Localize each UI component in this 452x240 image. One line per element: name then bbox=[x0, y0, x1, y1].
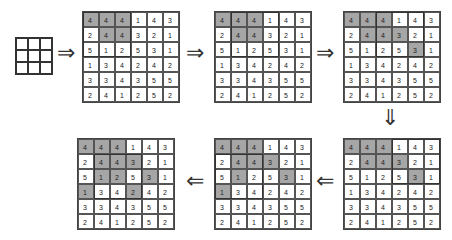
matrix-cell: 2 bbox=[376, 42, 392, 57]
matrix-cell: 4 bbox=[376, 12, 392, 27]
matrix-cell: 2 bbox=[344, 154, 360, 169]
matrix-cell: 3 bbox=[360, 57, 376, 72]
matrix-cell: 3 bbox=[392, 27, 408, 42]
matrix-cell: 2 bbox=[295, 184, 311, 199]
matrix-cell: 5 bbox=[131, 42, 147, 57]
matrix-cell: 4 bbox=[94, 154, 110, 169]
kernel-3x3-grid bbox=[15, 37, 53, 75]
matrix-cell: 4 bbox=[408, 184, 424, 199]
matrix-cell: 4 bbox=[360, 87, 376, 102]
matrix-cell: 4 bbox=[360, 27, 376, 42]
matrix-cell: 4 bbox=[408, 12, 424, 27]
matrix-cell: 5 bbox=[215, 42, 231, 57]
matrix-cell: 3 bbox=[231, 184, 247, 199]
matrix-cell: 1 bbox=[163, 27, 179, 42]
matrix-cell: 1 bbox=[295, 169, 311, 184]
matrix-grid-step-5: 444143244321512531134242334355241252 bbox=[214, 138, 312, 230]
matrix-cell: 2 bbox=[78, 214, 94, 229]
matrix-cell: 4 bbox=[360, 139, 376, 154]
matrix-cell: 4 bbox=[247, 27, 263, 42]
matrix-cell: 3 bbox=[408, 169, 424, 184]
matrix-cell: 2 bbox=[83, 87, 99, 102]
matrix-cell: 5 bbox=[279, 87, 295, 102]
matrix-cell: 2 bbox=[295, 87, 311, 102]
matrix-cell: 3 bbox=[126, 199, 142, 214]
matrix-cell: 3 bbox=[231, 57, 247, 72]
kernel-cell bbox=[28, 62, 40, 74]
matrix-cell: 3 bbox=[158, 139, 174, 154]
matrix-cell: 1 bbox=[376, 214, 392, 229]
matrix-cell: 5 bbox=[147, 72, 163, 87]
matrix-cell: 2 bbox=[392, 87, 408, 102]
matrix-cell: 2 bbox=[344, 27, 360, 42]
matrix-grid-step-1: 444143244321512531134242334355241252 bbox=[82, 11, 180, 103]
matrix-cell: 4 bbox=[247, 12, 263, 27]
kernel-cell bbox=[28, 50, 40, 62]
matrix-cell: 4 bbox=[231, 139, 247, 154]
double-arrow-right-icon: ⇒ bbox=[186, 42, 204, 64]
matrix-cell: 3 bbox=[99, 57, 115, 72]
matrix-cell: 1 bbox=[360, 169, 376, 184]
matrix-cell: 1 bbox=[247, 214, 263, 229]
matrix-cell: 2 bbox=[424, 184, 440, 199]
matrix-grid-step-4: 444143244321512531134242334355241252 bbox=[343, 138, 441, 230]
double-arrow-right-icon: ⇒ bbox=[57, 42, 75, 64]
matrix-cell: 3 bbox=[344, 72, 360, 87]
matrix-cell: 3 bbox=[424, 139, 440, 154]
matrix-cell: 4 bbox=[344, 139, 360, 154]
matrix-cell: 5 bbox=[424, 72, 440, 87]
matrix-cell: 4 bbox=[408, 139, 424, 154]
matrix-cell: 2 bbox=[295, 214, 311, 229]
matrix-cell: 1 bbox=[295, 154, 311, 169]
matrix-cell: 5 bbox=[263, 42, 279, 57]
matrix-cell: 4 bbox=[215, 12, 231, 27]
matrix-cell: 4 bbox=[247, 199, 263, 214]
matrix-cell: 4 bbox=[215, 139, 231, 154]
matrix-cell: 5 bbox=[295, 199, 311, 214]
matrix-cell: 2 bbox=[215, 154, 231, 169]
matrix-cell: 5 bbox=[408, 199, 424, 214]
matrix-cell: 4 bbox=[360, 154, 376, 169]
matrix-cell: 4 bbox=[376, 139, 392, 154]
matrix-cell: 5 bbox=[142, 214, 158, 229]
matrix-cell: 3 bbox=[99, 72, 115, 87]
matrix-cell: 4 bbox=[360, 12, 376, 27]
matrix-cell: 5 bbox=[295, 72, 311, 87]
matrix-cell: 3 bbox=[78, 199, 94, 214]
matrix-grid-step-6: 444143244321512531134242334355241252 bbox=[77, 138, 175, 230]
matrix-cell: 2 bbox=[424, 57, 440, 72]
matrix-cell: 4 bbox=[115, 72, 131, 87]
matrix-cell: 3 bbox=[424, 12, 440, 27]
matrix-cell: 2 bbox=[392, 184, 408, 199]
matrix-cell: 3 bbox=[94, 184, 110, 199]
matrix-cell: 5 bbox=[279, 72, 295, 87]
matrix-cell: 4 bbox=[110, 139, 126, 154]
matrix-cell: 1 bbox=[115, 87, 131, 102]
matrix-cell: 1 bbox=[263, 139, 279, 154]
matrix-cell: 4 bbox=[78, 139, 94, 154]
kernel-cell bbox=[40, 50, 52, 62]
matrix-cell: 5 bbox=[83, 42, 99, 57]
matrix-cell: 2 bbox=[147, 27, 163, 42]
matrix-cell: 1 bbox=[215, 184, 231, 199]
matrix-cell: 1 bbox=[231, 42, 247, 57]
matrix-cell: 5 bbox=[126, 169, 142, 184]
matrix-cell: 4 bbox=[376, 57, 392, 72]
matrix-cell: 5 bbox=[279, 214, 295, 229]
matrix-cell: 1 bbox=[99, 42, 115, 57]
matrix-cell: 3 bbox=[263, 72, 279, 87]
matrix-cell: 4 bbox=[376, 199, 392, 214]
matrix-cell: 1 bbox=[78, 184, 94, 199]
matrix-cell: 3 bbox=[263, 199, 279, 214]
matrix-cell: 3 bbox=[392, 199, 408, 214]
matrix-cell: 4 bbox=[231, 12, 247, 27]
kernel-cell bbox=[40, 62, 52, 74]
matrix-cell: 1 bbox=[83, 57, 99, 72]
matrix-cell: 4 bbox=[115, 27, 131, 42]
matrix-cell: 2 bbox=[408, 27, 424, 42]
matrix-cell: 4 bbox=[142, 139, 158, 154]
matrix-cell: 2 bbox=[263, 214, 279, 229]
kernel-cell bbox=[40, 38, 52, 50]
matrix-cell: 4 bbox=[147, 57, 163, 72]
matrix-cell: 2 bbox=[263, 57, 279, 72]
